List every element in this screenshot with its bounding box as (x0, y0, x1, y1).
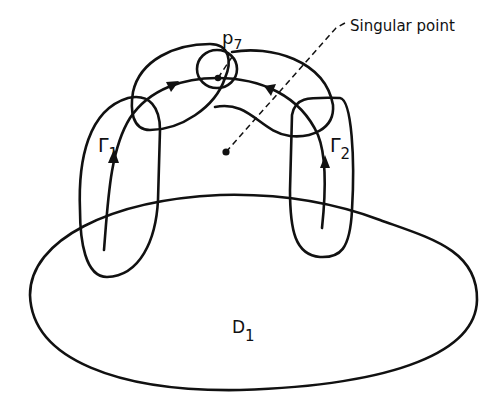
p7-neighborhood-circle (197, 50, 237, 88)
upper-right-arch (215, 50, 333, 136)
region-d1-boundary (30, 195, 477, 390)
diagram-canvas: p7 Singular point Γ1 Γ2 D1 (0, 0, 503, 409)
label-gamma1: Γ1 (98, 134, 118, 163)
left-loop (80, 97, 160, 277)
label-singular-point: Singular point (350, 17, 455, 35)
label-d1: D1 (232, 317, 255, 345)
right-loop (290, 98, 353, 257)
arrowhead-up-right (320, 155, 330, 168)
label-gamma2: Γ2 (330, 134, 350, 163)
